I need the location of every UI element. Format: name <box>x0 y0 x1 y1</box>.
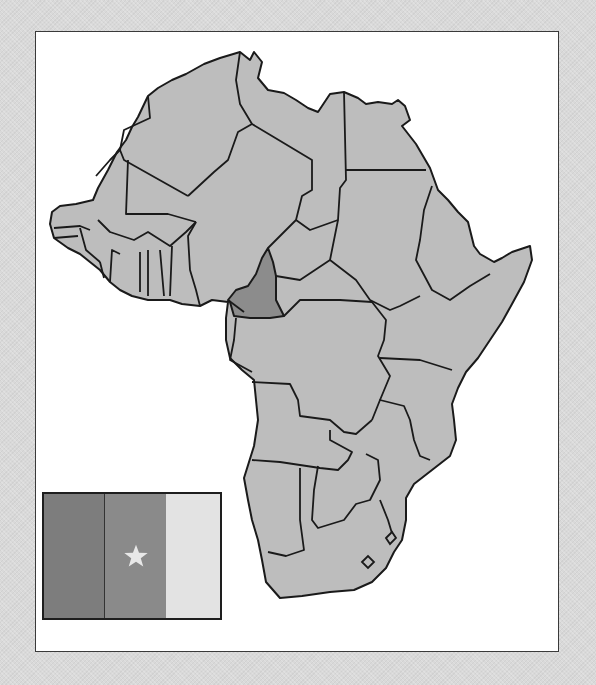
flag-band-center <box>105 494 166 618</box>
flag-band-right <box>166 494 220 618</box>
cameroon-flag <box>42 492 222 620</box>
flag-band-left <box>44 494 105 618</box>
star-icon <box>123 543 149 569</box>
